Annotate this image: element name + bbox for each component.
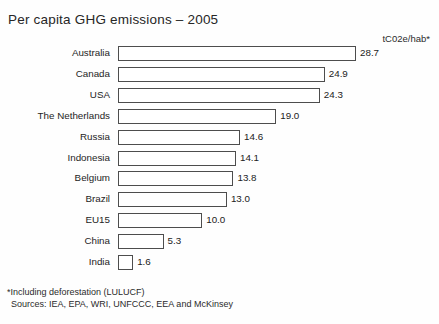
category-label: Canada [0,66,110,81]
bar-value-label: 13.8 [237,170,256,185]
category-label: Indonesia [0,150,110,165]
bar-value-label: 24.3 [324,87,343,102]
footnotes: *Including deforestation (LULUCF) Source… [7,286,233,310]
bar-row: Australia28.7 [0,45,439,65]
category-label: The Netherlands [0,108,110,123]
bar [118,151,236,166]
bar-value-label: 19.0 [280,108,299,123]
bar [118,109,276,124]
bar [118,46,356,61]
bar-value-label: 13.0 [231,191,250,206]
category-label: China [0,233,110,248]
bar [118,255,133,270]
bar [118,213,202,228]
axis-unit-label: tC02e/hab* [382,33,430,44]
bar [118,88,320,103]
bar-row: Belgium13.8 [0,170,439,190]
footnote-sources: Sources: IEA, EPA, WRI, UNFCCC, EEA and … [7,298,233,310]
category-label: Russia [0,129,110,144]
bar-row: EU1510.0 [0,212,439,232]
bar [118,67,325,82]
bar-value-label: 14.1 [240,150,259,165]
category-label: USA [0,87,110,102]
bar-row: Canada24.9 [0,66,439,86]
bar-row: The Netherlands19.0 [0,108,439,128]
plot-area: Australia28.7Canada24.9USA24.3The Nether… [0,45,439,280]
bar-row: China5.3 [0,233,439,253]
bar-value-label: 24.9 [329,66,348,81]
bar [118,171,233,186]
bar-value-label: 10.0 [206,212,225,227]
bar [118,234,164,249]
bar-row: Russia14.6 [0,129,439,149]
bar-row: Indonesia14.1 [0,150,439,170]
category-label: EU15 [0,212,110,227]
category-label: Belgium [0,170,110,185]
bar [118,130,240,145]
bar-value-label: 1.6 [137,254,151,269]
category-label: Australia [0,45,110,60]
page-title: Per capita GHG emissions – 2005 [8,12,218,27]
bar-row: India1.6 [0,254,439,274]
bar-row: USA24.3 [0,87,439,107]
bar-value-label: 14.6 [244,129,263,144]
category-label: Brazil [0,191,110,206]
bar-row: Brazil13.0 [0,191,439,211]
bar-value-label: 5.3 [168,233,182,248]
bar-value-label: 28.7 [360,45,379,60]
category-label: India [0,254,110,269]
chart-figure: Per capita GHG emissions – 2005 tC02e/ha… [0,0,439,324]
footnote-deforestation: *Including deforestation (LULUCF) [7,286,233,298]
bar [118,192,227,207]
